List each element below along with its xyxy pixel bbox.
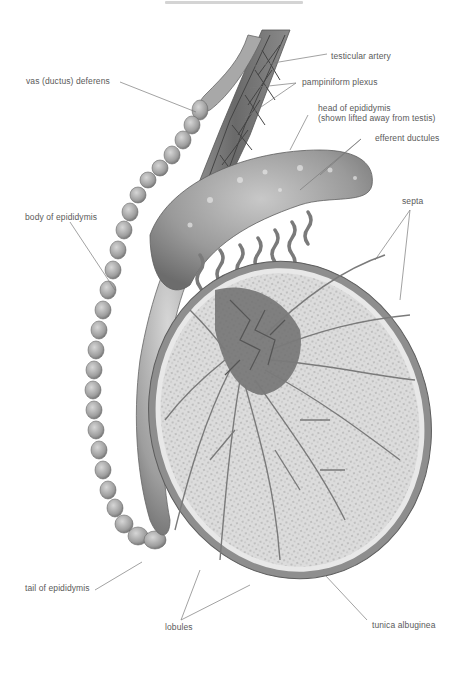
label-head-of-epididymis: head of epididymis — [318, 103, 391, 113]
label-testicular-artery: testicular artery — [331, 51, 391, 61]
label-tunica-albuginea: tunica albuginea — [372, 620, 436, 630]
label-body-of-epididymis: body of epididymis — [25, 212, 97, 222]
label-septa: septa — [402, 196, 423, 206]
label-tail-of-epididymis: tail of epididymis — [25, 583, 90, 593]
label-head-of-epididymis-note: (shown lifted away from testis) — [318, 113, 435, 123]
anatomy-diagram: testicular artery vas (ductus) deferens … — [0, 0, 468, 691]
label-vas-deferens: vas (ductus) deferens — [26, 76, 110, 86]
label-efferent-ductules: efferent ductules — [375, 133, 439, 143]
label-lobules: lobules — [165, 622, 193, 632]
label-pampiniform-plexus: pampiniform plexus — [302, 77, 378, 87]
